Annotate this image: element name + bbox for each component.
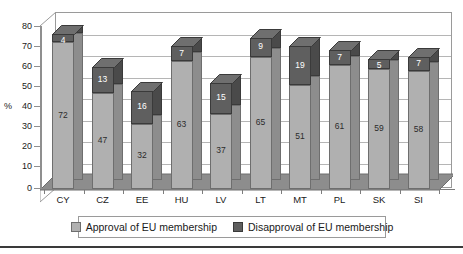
x-axis-label-si: SI	[399, 194, 439, 205]
chart-legend: Approval of EU membership Disapproval of…	[78, 216, 386, 238]
bar-value-label-approval-pl: 61	[329, 122, 351, 131]
bar-segment-approval-cz: 47	[92, 93, 114, 189]
bar-segment-approval-si: 58	[408, 71, 430, 189]
x-axis-label-pl: PL	[320, 194, 360, 205]
bar-side-face	[390, 60, 399, 180]
bar-top-face-sk	[368, 50, 401, 61]
x-axis-label-ee: EE	[122, 194, 162, 205]
legend-item-approval: Approval of EU membership	[71, 221, 217, 233]
bar-segment-approval-sk: 59	[368, 69, 390, 189]
bar-segment-approval-lv: 37	[210, 114, 232, 189]
bar-segment-disapproval-mt: 19	[289, 46, 311, 85]
x-axis-line	[40, 189, 455, 190]
legend-label-disapproval: Disapproval of EU membership	[248, 221, 393, 233]
x-axis-label-cy: CY	[43, 194, 83, 205]
bar-value-label-approval-si: 58	[408, 125, 430, 134]
bar-side-face	[272, 48, 281, 180]
bar-side-face	[311, 76, 320, 180]
bar-segment-disapproval-hu: 7	[171, 46, 193, 60]
x-axis-label-sk: SK	[359, 194, 399, 205]
bar-top-face-ee	[131, 82, 164, 93]
bar-value-label-disapproval-pl: 7	[329, 53, 351, 62]
bar-value-label-approval-cz: 47	[92, 136, 114, 145]
x-axis-label-hu: HU	[162, 194, 202, 205]
bar-side-face	[430, 62, 439, 180]
bar-side-face	[153, 115, 162, 180]
bar-segment-approval-cy: 72	[52, 42, 74, 189]
bar-value-label-disapproval-ee: 16	[131, 102, 153, 111]
bar-value-label-approval-hu: 63	[171, 120, 193, 129]
bar-value-label-approval-lv: 37	[210, 146, 232, 155]
bar-segment-approval-ee: 32	[131, 124, 153, 189]
bar-value-label-disapproval-mt: 19	[289, 61, 311, 70]
bar-top-face-cy	[52, 25, 85, 36]
bar-value-label-disapproval-cy: 4	[52, 36, 74, 45]
bar-segment-approval-mt: 51	[289, 85, 311, 189]
bar-top-face-si	[408, 48, 441, 59]
bar-segment-disapproval-ee: 16	[131, 91, 153, 124]
bar-side-face	[74, 33, 83, 180]
bar-segment-disapproval-lt: 9	[250, 38, 272, 56]
chart-root: 80 70 60 50 40 30 20 10 0 % 724471332166…	[0, 0, 463, 254]
bar-top-face-lt	[250, 29, 283, 40]
legend-swatch-approval-icon	[71, 222, 81, 232]
x-axis-label-mt: MT	[280, 194, 320, 205]
bar-segment-disapproval-lv: 15	[210, 83, 232, 114]
bar-segment-approval-pl: 61	[329, 65, 351, 189]
bar-side-face	[351, 56, 360, 180]
bar-top-face-cz	[92, 58, 125, 69]
bar-value-label-approval-mt: 51	[289, 132, 311, 141]
bar-series-container: 7244713321663737156595119617595587	[0, 0, 463, 208]
bar-segment-disapproval-cz: 13	[92, 67, 114, 93]
x-axis-label-lt: LT	[241, 194, 281, 205]
legend-item-disapproval: Disapproval of EU membership	[233, 221, 393, 233]
bar-top-face-mt	[289, 37, 322, 48]
bar-value-label-disapproval-hu: 7	[171, 49, 193, 58]
bar-top-face-pl	[329, 41, 362, 52]
legend-swatch-disapproval-icon	[233, 222, 243, 232]
bar-value-label-disapproval-lt: 9	[250, 42, 272, 51]
bar-side-face	[232, 105, 241, 180]
x-axis-label-lv: LV	[201, 194, 241, 205]
bar-value-label-disapproval-lv: 15	[210, 93, 232, 102]
bar-value-label-approval-lt: 65	[250, 118, 272, 127]
bar-value-label-disapproval-cz: 13	[92, 75, 114, 84]
chart-plot-area: 80 70 60 50 40 30 20 10 0 % 724471332166…	[0, 0, 463, 208]
bottom-divider	[0, 246, 463, 248]
x-axis-label-cz: CZ	[83, 194, 123, 205]
bar-segment-disapproval-pl: 7	[329, 50, 351, 64]
bar-value-label-approval-ee: 32	[131, 151, 153, 160]
bar-segment-disapproval-si: 7	[408, 57, 430, 71]
legend-label-approval: Approval of EU membership	[86, 221, 217, 233]
bar-value-label-disapproval-si: 7	[408, 59, 430, 68]
bar-side-face	[193, 52, 202, 180]
bar-value-label-approval-sk: 59	[368, 124, 390, 133]
bar-value-label-approval-cy: 72	[52, 111, 74, 120]
x-tick-end	[439, 189, 440, 194]
bar-segment-approval-lt: 65	[250, 57, 272, 189]
bar-value-label-disapproval-sk: 5	[368, 61, 390, 70]
bar-side-face	[114, 84, 123, 180]
bar-segment-approval-hu: 63	[171, 61, 193, 189]
bar-top-face-lv	[210, 74, 243, 85]
bar-top-face-hu	[171, 37, 204, 48]
